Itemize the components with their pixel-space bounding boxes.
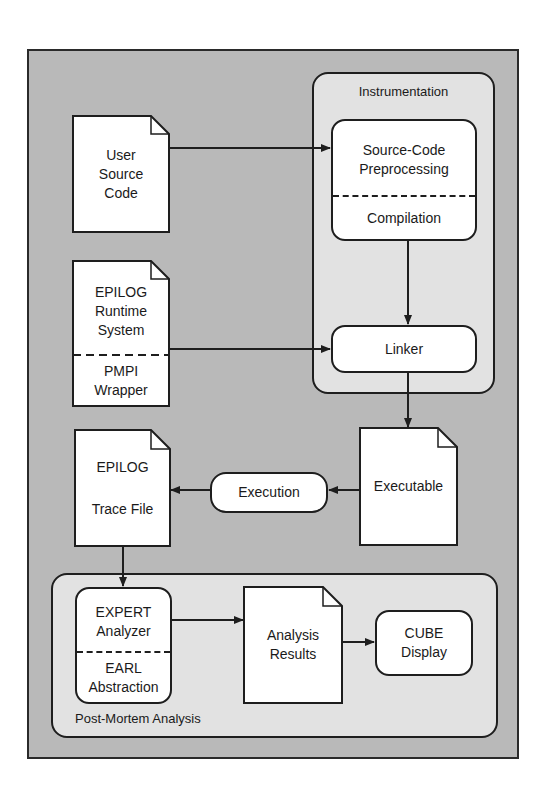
expert-box: EXPERT Analyzer EARL Abstraction <box>75 587 172 704</box>
user-source-code-doc: User Source Code <box>73 116 169 232</box>
doc-line: EPILOG <box>96 446 148 488</box>
pmpi-wrapper-section: PMPI Wrapper <box>73 356 169 406</box>
box-line: CUBE <box>405 624 444 643</box>
trace-file-doc: EPILOG Trace File <box>75 430 170 546</box>
box-line: Linker <box>385 340 423 359</box>
doc-line: PMPI <box>104 362 138 381</box>
doc-line: Code <box>104 184 137 203</box>
doc-line: EPILOG <box>95 283 147 302</box>
box-line: Compilation <box>367 209 441 228</box>
doc-line: Executable <box>374 477 443 496</box>
doc-line: Trace File <box>92 488 154 530</box>
preprocessing-section: Source-Code Preprocessing <box>333 121 475 195</box>
analysis-results-doc: Analysis Results <box>244 587 342 703</box>
cube-label-wrap: CUBE Display <box>377 612 471 674</box>
box-line: Analyzer <box>96 622 150 641</box>
expert-section: EXPERT Analyzer <box>77 589 170 651</box>
doc-line: User <box>106 146 136 165</box>
execution-label-wrap: Execution <box>212 474 326 511</box>
doc-line: Runtime <box>95 302 147 321</box>
box-line: Preprocessing <box>359 160 449 179</box>
epilog-runtime-doc: EPILOG Runtime System <box>73 261 169 355</box>
doc-line: Source <box>99 165 143 184</box>
box-line: Source-Code <box>363 141 446 160</box>
box-line: EARL <box>105 659 142 678</box>
box-line: Display <box>401 643 447 662</box>
box-line: EXPERT <box>96 603 152 622</box>
doc-line: Results <box>270 645 317 664</box>
box-line: Execution <box>238 483 299 502</box>
linker-box: Linker <box>331 325 477 373</box>
earl-section: EARL Abstraction <box>77 651 170 702</box>
doc-line: Analysis <box>267 626 319 645</box>
post-mortem-label: Post-Mortem Analysis <box>75 711 201 726</box>
cube-box: CUBE Display <box>375 610 473 676</box>
doc-line: Wrapper <box>94 381 147 400</box>
executable-doc: Executable <box>360 428 457 545</box>
box-line: Abstraction <box>88 678 158 697</box>
instrumentation-label: Instrumentation <box>314 84 493 99</box>
execution-box: Execution <box>210 472 328 513</box>
compilation-section: Compilation <box>333 195 475 239</box>
linker-label-wrap: Linker <box>333 327 475 371</box>
preprocessing-box: Source-Code Preprocessing Compilation <box>331 119 477 241</box>
doc-line: System <box>98 321 145 340</box>
